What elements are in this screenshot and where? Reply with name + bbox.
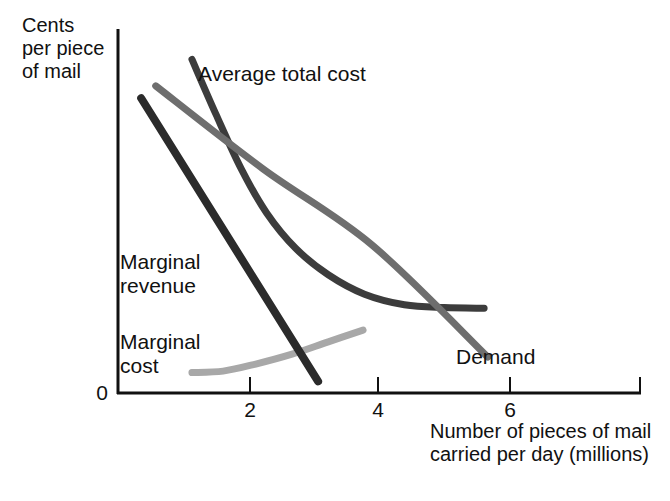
curve-demand bbox=[156, 86, 488, 357]
curve-label-average-total-cost: Average total cost bbox=[198, 62, 366, 86]
curve-label-marginal-cost: Marginal cost bbox=[120, 330, 201, 379]
curve-marginal-cost bbox=[192, 330, 363, 372]
axis-origin-label: 0 bbox=[78, 381, 108, 405]
curve-label-marginal-revenue: Marginal revenue bbox=[120, 250, 201, 299]
x-tick-label-6: 6 bbox=[490, 398, 530, 422]
chart-container: Cents per piece of mail Number of pieces… bbox=[0, 0, 670, 501]
x-tick-label-2: 2 bbox=[230, 398, 270, 422]
x-tick-label-4: 4 bbox=[358, 398, 398, 422]
curve-label-demand: Demand bbox=[456, 345, 535, 369]
x-axis-title: Number of pieces of mail carried per day… bbox=[430, 420, 651, 466]
y-axis-title: Cents per piece of mail bbox=[22, 14, 104, 84]
curve-average-total-cost bbox=[192, 59, 484, 308]
